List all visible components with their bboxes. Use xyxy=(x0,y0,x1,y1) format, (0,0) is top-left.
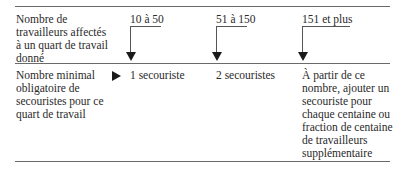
range-10-50: 10 à 50 xyxy=(130,12,164,26)
bracket-line xyxy=(302,26,350,27)
arrow-down-icon xyxy=(212,52,222,61)
middle-rule xyxy=(15,63,390,64)
result-2: 2 secouristes xyxy=(216,68,275,82)
result-line: supplémentaire xyxy=(302,146,372,160)
bracket-line xyxy=(302,26,303,54)
bracket-line xyxy=(216,26,247,27)
label-line: à un quart de travail xyxy=(16,38,108,52)
label-line: secouristes pour ce xyxy=(16,94,104,108)
top-rule xyxy=(15,6,390,7)
label-line: Nombre minimal xyxy=(16,68,95,82)
result-line: de travailleurs xyxy=(302,133,367,147)
label-line: quart de travail xyxy=(16,107,86,121)
result-line: À partir de ce xyxy=(302,68,365,82)
label-line: travailleurs affectés xyxy=(16,25,106,39)
bottom-rule xyxy=(15,161,390,162)
range-51-150: 51 à 150 xyxy=(216,12,256,26)
bracket-line xyxy=(130,26,131,54)
bracket-line xyxy=(130,26,161,27)
result-1: 1 secouriste xyxy=(130,68,185,82)
arrow-down-icon xyxy=(298,52,308,61)
result-line: secouriste pour xyxy=(302,94,372,108)
label-line: Nombre de xyxy=(16,12,67,26)
result-line: fraction de centaine xyxy=(302,120,393,134)
label-line: donné xyxy=(16,51,44,65)
arrow-right-icon xyxy=(112,71,121,81)
arrow-down-icon xyxy=(126,52,136,61)
label-line: obligatoire de xyxy=(16,81,80,95)
result-line: chaque centaine ou xyxy=(302,107,390,121)
bracket-line xyxy=(216,26,217,54)
result-line: nombre, ajouter un xyxy=(302,81,389,95)
range-151-plus: 151 et plus xyxy=(302,12,352,26)
